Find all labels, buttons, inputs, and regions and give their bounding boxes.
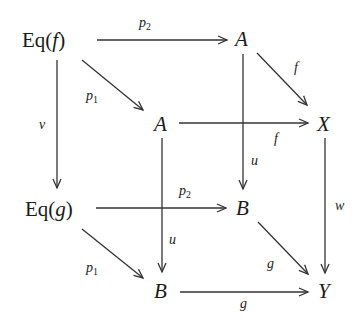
label-f-mid: f bbox=[274, 131, 280, 146]
node-eq-g: Eq(g) bbox=[25, 197, 73, 221]
label-p1-top: p1 bbox=[85, 88, 98, 105]
label-p1-bot: p1 bbox=[85, 260, 98, 277]
label-g-diag: g bbox=[267, 256, 274, 271]
label-w: w bbox=[335, 198, 345, 213]
label-p2-bot: p2 bbox=[178, 183, 191, 200]
node-y: Y bbox=[318, 279, 332, 303]
node-eq-f: Eq(f) bbox=[22, 28, 65, 52]
node-b-bot: B bbox=[154, 279, 167, 303]
node-a-mid: A bbox=[152, 112, 167, 136]
node-x: X bbox=[316, 112, 331, 136]
node-b-mid: B bbox=[236, 196, 249, 220]
label-p2-top: p2 bbox=[138, 15, 151, 32]
arrow-b-mid-to-y bbox=[258, 222, 308, 274]
label-f-top: f bbox=[294, 60, 300, 75]
label-v: v bbox=[39, 117, 46, 132]
label-g-bottom: g bbox=[240, 296, 247, 311]
node-a-top: A bbox=[233, 27, 248, 51]
commutative-diagram: Eq(f) A A X Eq(g) B B Y p2 p1 v f f u u … bbox=[0, 0, 360, 323]
label-u-mid: u bbox=[169, 232, 176, 247]
arrow-a-top-to-x bbox=[257, 53, 307, 105]
label-u-top: u bbox=[251, 153, 258, 168]
